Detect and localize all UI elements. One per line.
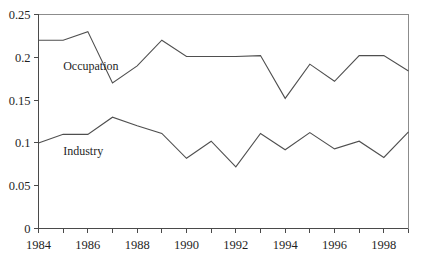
x-tick-label-1984: 1984 xyxy=(26,238,52,252)
y-axis-tick-labels: 00.050.10.150.20.25 xyxy=(9,8,31,236)
y-tick-label-2: 0.1 xyxy=(15,136,31,150)
x-tick-label-1996: 1996 xyxy=(322,238,347,252)
x-tick-label-1992: 1992 xyxy=(223,238,248,252)
line-chart: 00.050.10.150.20.25 19841986198819901992… xyxy=(0,0,425,259)
x-tick-label-1988: 1988 xyxy=(125,238,150,252)
y-tick-label-4: 0.2 xyxy=(15,51,31,65)
x-axis-ticks xyxy=(39,229,409,234)
plot-frame xyxy=(39,15,409,229)
x-tick-label-1998: 1998 xyxy=(371,238,396,252)
y-tick-label-0: 0 xyxy=(24,222,30,236)
series-label-occupation: Occupation xyxy=(63,59,118,73)
y-tick-label-3: 0.15 xyxy=(9,94,31,108)
series-annotations: OccupationIndustry xyxy=(63,59,118,158)
chart-canvas: 00.050.10.150.20.25 19841986198819901992… xyxy=(0,0,425,259)
x-tick-label-1990: 1990 xyxy=(174,238,199,252)
x-tick-label-1986: 1986 xyxy=(75,238,100,252)
series-line-industry xyxy=(39,117,409,167)
y-tick-label-1: 0.05 xyxy=(9,179,31,193)
x-axis-tick-labels: 19841986198819901992199419961998 xyxy=(26,238,396,252)
x-tick-label-1994: 1994 xyxy=(273,238,299,252)
series-label-industry: Industry xyxy=(63,144,103,158)
y-tick-label-5: 0.25 xyxy=(9,8,31,22)
y-axis-ticks xyxy=(34,15,39,229)
